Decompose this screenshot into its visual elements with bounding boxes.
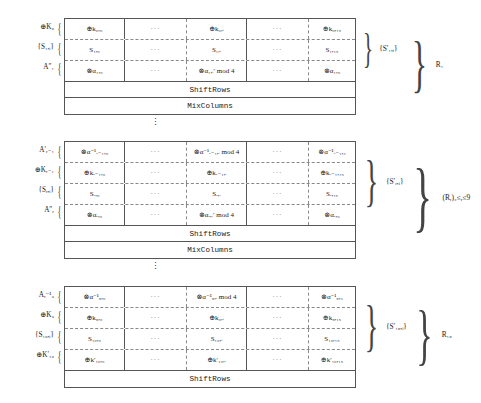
grid-cell[interactable]: ⊗α₁,ᵢ′ mod 4 — [187, 61, 247, 81]
grid-cell-ellipsis: ··· — [125, 205, 187, 225]
shiftrows-row[interactable]: ShiftRows — [65, 371, 355, 387]
grid-cell-ellipsis: ··· — [125, 142, 187, 162]
round-block-r: A′ᵣ₋₁ { ⊕Kᵣ₋₁ { {Sᵣ,ᵢ} { A″ᵣ { ⊗α⁻¹ᵣ₋₁,₀… — [8, 141, 356, 259]
grid-row: S₁,₀ ··· S₁,ᵢ ··· S₁,₁₅ — [65, 40, 355, 61]
mixcolumns-row[interactable]: MixColumns — [65, 242, 355, 258]
grid-cell-ellipsis: ··· — [125, 350, 187, 370]
grid-cell[interactable]: ⊕kᵣ₋₁,₀ — [65, 163, 125, 183]
outer-brace-label: R₁₀ — [442, 330, 452, 339]
grid-cell-ellipsis: ··· — [247, 329, 309, 349]
grid-cell[interactable]: ⊗α⁻¹₉,₃ — [309, 287, 355, 307]
grid-row: ⊗α⁻¹ᵣ₋₁,₀ ··· ⊗α⁻¹ᵣ₋₁,ᵢ mod 4 ··· ⊗α⁻¹ᵣ₋… — [65, 142, 355, 163]
grid-cell[interactable]: ⊕k₉,₀ — [65, 308, 125, 328]
grid-cell-ellipsis: ··· — [125, 40, 187, 60]
grid-cell[interactable]: ⊗α₁,₀ — [309, 61, 355, 81]
inner-brace-label: {S′₁,ᵢ} — [379, 44, 397, 53]
grid-cell-ellipsis: ··· — [247, 142, 309, 162]
round-10-grid: ⊗α⁻¹₉,₀ ··· ⊗α⁻¹₉,ᵢ mod 4 ··· ⊗α⁻¹₉,₃ ⊕k… — [64, 286, 356, 388]
round-r-left-labels: A′ᵣ₋₁ { ⊕Kᵣ₋₁ { {Sᵣ,ᵢ} { A″ᵣ { — [8, 141, 64, 259]
grid-cell[interactable]: ⊕k′₁₀,ᵢ — [187, 350, 247, 370]
left-label-row: A′ᵣ₋₁ { — [8, 141, 64, 161]
grid-cell[interactable]: ⊗αᵣ,₀ — [309, 205, 355, 225]
grid-cell[interactable]: S₁,₀ — [65, 40, 125, 60]
grid-cell[interactable]: ⊗α⁻¹₉,₀ — [65, 287, 125, 307]
grid-row: ⊕kᵣ₋₁,₀ ··· ⊕kᵣ₋₁,ᵢ ··· ⊕kᵣ₋₁,₁₅ — [65, 163, 355, 184]
left-label-row: ⊕K′₁₀ { — [8, 346, 64, 366]
grid-cell[interactable]: ⊕k₀,₁₅ — [309, 19, 355, 39]
grid-cell-ellipsis: ··· — [247, 287, 309, 307]
grid-cell-ellipsis: ··· — [125, 329, 187, 349]
grid-cell[interactable]: ⊕kᵣ₋₁,₁₅ — [309, 163, 355, 183]
grid-row: ⊕k₉,₀ ··· ⊕k₀,ᵢ ··· ⊕k₉,₁₅ — [65, 308, 355, 329]
grid-cell[interactable]: ⊗α⁻¹ᵣ₋₁,ᵢ mod 4 — [187, 142, 247, 162]
right-brace-icon: } — [413, 158, 432, 236]
grid-cell[interactable]: ⊕k₉,₁₅ — [309, 308, 355, 328]
left-label-text: A″₁ — [43, 64, 54, 71]
grid-cell[interactable]: S₁₀,₀ — [65, 329, 125, 349]
left-label-text: ⊕K₀ — [40, 24, 54, 31]
left-label-row: ⊕K₉ { — [8, 306, 64, 326]
left-label-row: ⊕K₀ { — [8, 18, 64, 38]
outer-brace-label: (Rᵣ)₂≤ᵣ≤9 — [442, 193, 470, 202]
grid-row: Sᵣ,₀ ··· Sᵣ,ᵢ ··· Sᵣ,₁₅ — [65, 184, 355, 205]
left-label-row: {Sᵣ,ᵢ} { — [8, 181, 64, 201]
mixcolumns-row[interactable]: MixColumns — [65, 98, 355, 114]
shiftrows-row[interactable]: ShiftRows — [65, 82, 355, 98]
left-label-text: A′ᵣ₋₁ — [39, 147, 54, 154]
grid-cell[interactable]: ⊕k′₁₀,₁₅ — [309, 350, 355, 370]
grid-cell[interactable]: ⊕k₀,ᵢ — [187, 308, 247, 328]
grid-cell-ellipsis: ··· — [247, 350, 309, 370]
grid-cell[interactable]: Sᵣ,ᵢ — [187, 184, 247, 204]
left-label-row: {S₁₀,ᵢ} { — [8, 326, 64, 346]
grid-cell[interactable]: ⊗α⁻¹ᵣ₋₁,₀ — [65, 142, 125, 162]
grid-cell-ellipsis: ··· — [247, 40, 309, 60]
grid-cell[interactable]: ⊕kᵣ₋₁,ᵢ — [187, 163, 247, 183]
right-brace-icon: } — [412, 32, 427, 96]
grid-cell[interactable]: ⊕k₀,ᵢ — [187, 19, 247, 39]
grid-row: ⊕k₀,₀ ··· ⊕k₀,ᵢ ··· ⊕k₀,₁₅ — [65, 19, 355, 40]
grid-cell[interactable]: S₁,ᵢ — [187, 40, 247, 60]
grid-cell[interactable]: ⊕k′₁₀,₀ — [65, 350, 125, 370]
round-1-inner-brace-group: } {S′₁,ᵢ} — [358, 18, 398, 78]
vertical-ellipsis: ⋮ — [0, 262, 311, 271]
grid-cell[interactable]: Sᵣ,₀ — [65, 184, 125, 204]
left-label-text: Aᵣ⁻¹₉ — [39, 292, 54, 299]
grid-row: ⊕k′₁₀,₀ ··· ⊕k′₁₀,ᵢ ··· ⊕k′₁₀,₁₅ — [65, 350, 355, 371]
grid-cell[interactable]: ⊗α⁻¹₉,ᵢ mod 4 — [187, 287, 247, 307]
left-label-text: ⊕K₉ — [40, 312, 54, 319]
left-label-row: {S₁,ᵢ} { — [8, 38, 64, 58]
right-brace-icon: } — [416, 300, 432, 368]
right-brace-icon: } — [365, 298, 378, 354]
round-r-grid: ⊗α⁻¹ᵣ₋₁,₀ ··· ⊗α⁻¹ᵣ₋₁,ᵢ mod 4 ··· ⊗α⁻¹ᵣ₋… — [64, 141, 356, 259]
left-label-row: A″₁ { — [8, 58, 64, 78]
grid-cell[interactable]: S₁,₁₅ — [309, 40, 355, 60]
grid-cell-ellipsis: ··· — [125, 19, 187, 39]
round-10-outer-brace-group: } R₁₀ — [408, 286, 452, 382]
round-block-10: Aᵣ⁻¹₉ { ⊕K₉ { {S₁₀,ᵢ} { ⊕K′₁₀ { ⊗α⁻¹₉,₀ … — [8, 286, 356, 388]
grid-cell-ellipsis: ··· — [247, 61, 309, 81]
grid-cell[interactable]: ⊗α₁,₀ — [65, 61, 125, 81]
grid-cell[interactable]: ⊕k₀,₀ — [65, 19, 125, 39]
grid-cell-ellipsis: ··· — [125, 308, 187, 328]
grid-cell[interactable]: ⊗α⁻¹ᵣ₋₁,₃ — [309, 142, 355, 162]
left-label-text: ⊕Kᵣ₋₁ — [35, 167, 54, 174]
round-block-1: ⊕K₀ { {S₁,ᵢ} { A″₁ { ⊕k₀,₀ ··· ⊕k₀,ᵢ ···… — [8, 18, 356, 115]
left-label-text: A″ᵣ — [44, 207, 54, 214]
grid-row: S₁₀,₀ ··· S₁₀,ᵢ ··· S₁₀,₁₅ — [65, 329, 355, 350]
grid-cell-ellipsis: ··· — [247, 308, 309, 328]
round-10-inner-brace-group: } {S′₁₀,ᵢ} — [358, 286, 407, 366]
grid-cell[interactable]: S₁₀,ᵢ — [187, 329, 247, 349]
aes-round-diagram: ⊕K₀ { {S₁,ᵢ} { A″₁ { ⊕k₀,₀ ··· ⊕k₀,ᵢ ···… — [0, 0, 481, 403]
right-brace-icon: } — [365, 153, 378, 209]
grid-cell[interactable]: ⊗αᵣ,ᵢ′ mod 4 — [187, 205, 247, 225]
grid-cell[interactable]: Sᵣ,₁₅ — [309, 184, 355, 204]
grid-cell-ellipsis: ··· — [247, 163, 309, 183]
left-label-row: Aᵣ⁻¹₉ { — [8, 286, 64, 306]
shiftrows-row[interactable]: ShiftRows — [65, 226, 355, 242]
grid-cell-ellipsis: ··· — [125, 184, 187, 204]
grid-cell[interactable]: ⊗αᵣ,₀ — [65, 205, 125, 225]
left-label-text: {S₁,ᵢ} — [38, 44, 54, 51]
outer-brace-label: R₁ — [436, 60, 444, 69]
grid-cell[interactable]: S₁₀,₁₅ — [309, 329, 355, 349]
grid-cell-ellipsis: ··· — [125, 61, 187, 81]
